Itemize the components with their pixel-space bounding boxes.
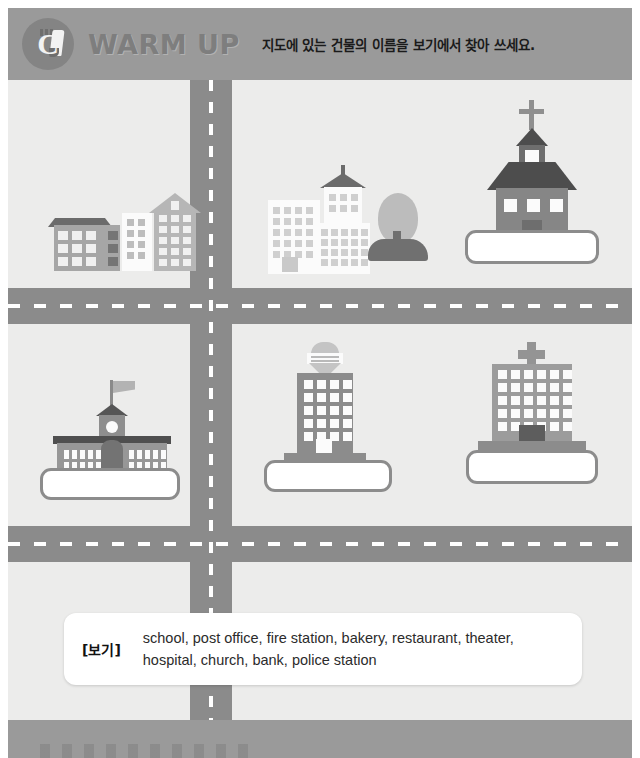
answer-box-school[interactable] — [40, 468, 180, 500]
word-bank-label: [보기] — [82, 639, 121, 659]
apartment-buildings-group — [46, 193, 186, 273]
tower-windows — [304, 380, 352, 441]
cross-icon-bar — [519, 109, 544, 114]
clock-icon — [106, 421, 118, 433]
gabled-building-windows — [159, 215, 191, 266]
upper-lane-marking — [8, 304, 632, 308]
answer-box-hospital[interactable] — [466, 450, 598, 484]
lower-lane-marking — [8, 542, 632, 546]
water-tank-line-1 — [311, 356, 339, 358]
warm-up-title: WARM UP — [88, 29, 240, 60]
worksheet-page: C WARM UP 지도에 있는 건물의 이름을 보기에서 찾아 쓰세요. — [0, 0, 640, 758]
office-upper-windows — [329, 194, 358, 212]
church-roof — [487, 162, 577, 190]
church-building — [460, 100, 610, 280]
office-left-windows — [273, 207, 313, 258]
office-peaked-roof — [320, 173, 366, 188]
water-tank-line-2 — [311, 360, 339, 362]
church-steeple-window — [525, 150, 539, 164]
apartment-windows — [58, 231, 96, 266]
warm-up-badge-icon: C — [22, 18, 74, 70]
school-building — [30, 378, 190, 488]
word-bank-words: school, post office, fire station, baker… — [143, 627, 564, 672]
tower-building — [264, 342, 424, 490]
hospital-windows — [498, 370, 572, 431]
instruction-text: 지도에 있는 건물의 이름을 보기에서 찾아 쓰세요. — [262, 34, 535, 54]
answer-box-tower[interactable] — [264, 460, 392, 492]
hospital-building — [466, 342, 626, 490]
answer-box-church[interactable] — [465, 230, 599, 264]
white-tower-windows — [127, 219, 145, 259]
apartment-side-windows — [108, 231, 118, 266]
office-lower-windows — [321, 229, 368, 266]
office-left-entrance — [282, 257, 298, 272]
medical-cross-icon-bar — [518, 350, 545, 359]
hospital-entrance — [519, 425, 545, 442]
cross-icon — [529, 100, 534, 130]
flag-icon — [113, 381, 135, 393]
bottom-faded-text — [40, 744, 260, 758]
warm-up-header: C WARM UP 지도에 있는 건물의 이름을 보기에서 찾아 쓰세요. — [8, 8, 632, 80]
church-windows — [504, 199, 563, 212]
church-steeple-roof — [516, 128, 548, 146]
water-tank-band — [307, 353, 343, 364]
badge-letter-c: C — [22, 18, 74, 70]
tree-bush — [368, 239, 428, 261]
word-bank: [보기] school, post office, fire station, … — [64, 613, 582, 685]
gabled-building-attic-window — [171, 201, 179, 210]
office-buildings-group — [266, 165, 426, 275]
